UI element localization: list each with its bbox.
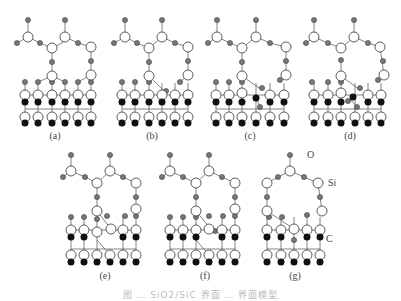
panel-g: O Si C (g) (250, 145, 350, 285)
panel-d: (d) (300, 5, 400, 145)
panel-label: (d) (300, 130, 400, 141)
structure-diagram (200, 5, 300, 130)
figure-caption: 图 … SiO2/SiC 界面 … 界面模型 (0, 288, 401, 301)
structure-diagram (102, 5, 202, 130)
panel-b: (b) (102, 5, 202, 145)
panel-label: (e) (55, 270, 155, 281)
structure-diagram (55, 145, 155, 270)
panel-label: (f) (155, 270, 255, 281)
structure-diagram (5, 5, 105, 130)
panel-label: (c) (200, 130, 300, 141)
structure-diagram (300, 5, 400, 130)
panel-a: (a) (5, 5, 105, 145)
structure-diagram (155, 145, 255, 270)
panel-f: (f) (155, 145, 255, 285)
panel-label: (a) (5, 130, 105, 141)
structure-diagram (250, 145, 350, 270)
panel-c: (c) (200, 5, 300, 145)
panel-label: (b) (102, 130, 202, 141)
panel-label: (g) (245, 270, 345, 281)
panel-e: (e) (55, 145, 155, 285)
atom-label-oxygen: O (307, 149, 314, 160)
atom-label-carbon: C (326, 233, 333, 244)
atom-label-silicon: Si (328, 177, 336, 188)
